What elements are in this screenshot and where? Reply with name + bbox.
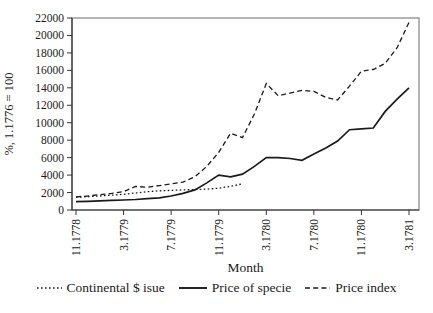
y-tick-label: 22000 <box>35 12 64 24</box>
chart-legend: Continental $ isue Price of specie Price… <box>0 281 433 295</box>
chart-plot-area: 0200040006000800010000120001400016000180… <box>0 0 433 278</box>
y-tick-label: 18000 <box>35 47 64 59</box>
depreciation-chart-figure: 0200040006000800010000120001400016000180… <box>0 0 433 313</box>
series-line-price-of-specie <box>76 88 409 202</box>
y-axis: 0200040006000800010000120001400016000180… <box>35 12 72 216</box>
legend-item-continental-issue: Continental $ isue <box>37 281 165 295</box>
y-tick-label: 14000 <box>35 82 64 94</box>
y-tick-label: 4000 <box>41 169 64 181</box>
x-tick-label: 11.1780 <box>355 219 367 256</box>
legend-item-price-index: Price index <box>305 281 396 295</box>
y-tick-label: 20000 <box>35 29 64 41</box>
x-axis-label: Month <box>227 260 263 275</box>
dashed-line-swatch <box>305 283 330 293</box>
solid-line-swatch <box>179 283 207 293</box>
legend-item-price-of-specie: Price of specie <box>179 281 291 295</box>
y-tick-label: 6000 <box>41 152 64 164</box>
x-tick-label: 3.1781 <box>403 219 415 251</box>
x-tick-label: 3.1779 <box>118 219 130 251</box>
plot-frame <box>72 18 419 210</box>
y-tick-label: 2000 <box>41 187 64 199</box>
dotted-line-swatch <box>37 283 62 293</box>
series-line-price-index <box>76 22 409 197</box>
x-tick-label: 11.1778 <box>70 219 82 256</box>
x-tick-label: 11.1779 <box>213 219 225 256</box>
y-axis-label: %, 1.1776 = 100 <box>2 72 16 155</box>
y-tick-label: 8000 <box>41 134 64 146</box>
y-tick-label: 0 <box>58 204 64 216</box>
x-tick-label: 7.1779 <box>165 219 177 251</box>
legend-label-price-of-specie: Price of specie <box>212 281 291 295</box>
y-tick-label: 16000 <box>35 64 64 76</box>
y-tick-label: 10000 <box>35 117 64 129</box>
y-tick-label: 12000 <box>35 99 64 111</box>
legend-label-continental-issue: Continental $ isue <box>67 281 165 295</box>
x-axis: 11.17783.17797.177911.17793.17807.178011… <box>70 210 415 256</box>
x-tick-label: 7.1780 <box>308 219 320 251</box>
legend-label-price-index: Price index <box>335 281 396 295</box>
x-tick-label: 3.1780 <box>260 219 272 251</box>
